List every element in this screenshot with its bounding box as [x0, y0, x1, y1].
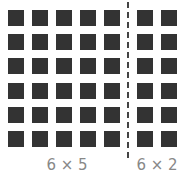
left-array-square — [8, 58, 24, 74]
right-array-square — [161, 58, 177, 74]
right-array-square — [137, 107, 153, 123]
right-array-square — [137, 34, 153, 50]
left-array-square — [32, 58, 48, 74]
left-array-square — [32, 131, 48, 147]
right-array-square — [137, 10, 153, 26]
left-array-square — [104, 58, 120, 74]
right-array-square — [161, 107, 177, 123]
right-array-square — [161, 131, 177, 147]
dashed-divider — [127, 2, 129, 158]
left-array-square — [8, 131, 24, 147]
left-array-square — [80, 58, 96, 74]
left-array-square — [56, 10, 72, 26]
right-array-square — [137, 58, 153, 74]
left-group-label: 6 × 5 — [37, 156, 97, 174]
left-array-square — [8, 10, 24, 26]
left-array-square — [56, 83, 72, 99]
left-array-square — [104, 131, 120, 147]
left-array-square — [56, 131, 72, 147]
left-array-square — [32, 107, 48, 123]
left-array-square — [56, 58, 72, 74]
right-array-square — [137, 83, 153, 99]
left-array-square — [8, 107, 24, 123]
left-array-square — [56, 34, 72, 50]
left-array-square — [56, 107, 72, 123]
left-array-square — [80, 131, 96, 147]
left-array-square — [32, 34, 48, 50]
right-array-square — [161, 10, 177, 26]
left-array-square — [104, 10, 120, 26]
left-array-square — [32, 83, 48, 99]
left-array-square — [32, 10, 48, 26]
left-array-square — [104, 34, 120, 50]
left-array-square — [104, 107, 120, 123]
left-array-square — [80, 83, 96, 99]
right-array-square — [161, 83, 177, 99]
left-array-square — [104, 83, 120, 99]
left-array-square — [80, 10, 96, 26]
left-array-square — [8, 83, 24, 99]
right-group-label: 6 × 2 — [127, 156, 183, 174]
left-array-square — [80, 34, 96, 50]
right-array-square — [161, 34, 177, 50]
right-array-square — [137, 131, 153, 147]
left-array-square — [80, 107, 96, 123]
left-array-square — [8, 34, 24, 50]
